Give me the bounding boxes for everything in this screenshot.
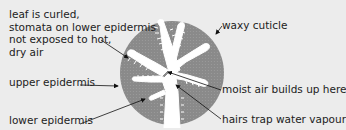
label-moist-air: moist air builds up here xyxy=(222,83,346,96)
label-waxy-cuticle: waxy cuticle xyxy=(222,19,287,32)
label-line: leaf is curled, xyxy=(9,8,156,21)
label-upper-epidermis: upper epidermis xyxy=(9,76,95,89)
label-hairs: hairs trap water vapour xyxy=(222,113,346,126)
label-lower-epidermis: lower epidermis xyxy=(9,114,93,127)
label-leaf-curled: leaf is curled, stomata on lower epiderm… xyxy=(9,8,156,58)
label-line: dry air xyxy=(9,46,156,59)
label-line: not exposed to hot, xyxy=(9,33,156,46)
label-line: stomata on lower epidermis xyxy=(9,21,156,34)
